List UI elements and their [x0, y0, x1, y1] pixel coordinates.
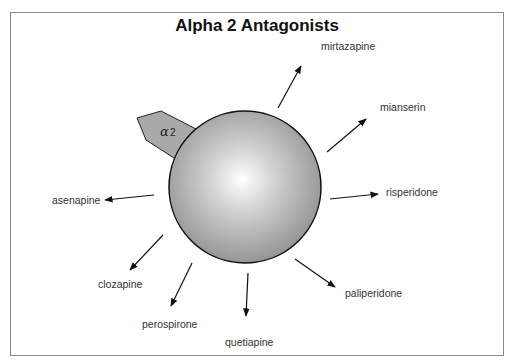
arrow-perospirone	[171, 263, 192, 306]
arrow-mianserin	[327, 119, 366, 152]
arrow-clozapine	[130, 235, 163, 270]
arrow-mirtazapine	[278, 66, 301, 108]
arrow-paliperidone	[295, 259, 335, 287]
drug-label-perospirone: perospirone	[142, 318, 197, 330]
svg-text:2: 2	[170, 127, 176, 138]
drug-label-mirtazapine: mirtazapine	[321, 40, 375, 52]
svg-text:α: α	[160, 124, 169, 139]
drug-label-mianserin: mianserin	[380, 101, 426, 113]
drug-label-clozapine: clozapine	[98, 278, 142, 290]
receptor-sphere	[169, 111, 321, 263]
diagram-canvas: α 2	[0, 0, 514, 364]
drug-label-risperidone: risperidone	[386, 186, 438, 198]
arrow-asenapine	[105, 195, 154, 200]
drug-label-quetiapine: quetiapine	[225, 336, 273, 348]
drug-label-asenapine: asenapine	[52, 194, 100, 206]
arrow-quetiapine	[246, 273, 248, 316]
arrow-risperidone	[330, 194, 378, 199]
drug-label-paliperidone: paliperidone	[345, 287, 402, 299]
